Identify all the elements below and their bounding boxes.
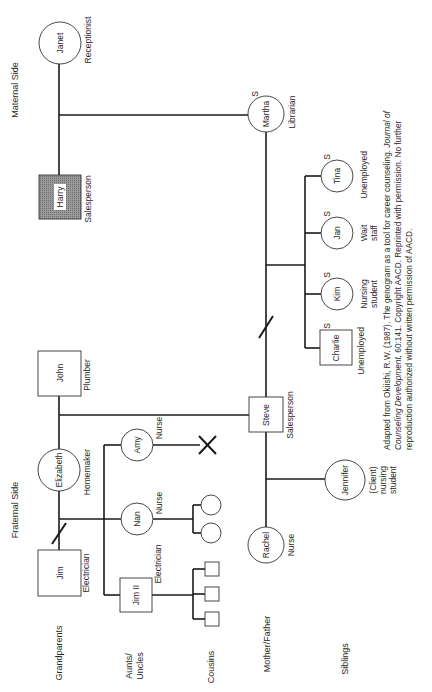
occupation-jan-line1: Wait [359,224,369,241]
cousin-male-2 [205,587,219,601]
marker-s-charlie: S [322,323,332,329]
generation-label-siblings: Siblings [340,643,350,675]
marker-s-jan: S [322,211,332,217]
occupation-nan: Nurse [154,491,164,514]
occupation-martha: Librarian [287,95,297,128]
name-amy: Amy [132,436,142,454]
name-steve: Steve [261,404,271,426]
occupation-tina: Unemployed [359,151,369,199]
occupation-harry: Salesperson [83,175,93,223]
citation-line-1: Adapted from Okiishi, R.W. (1987). The g… [382,109,392,450]
maternal-side-label: Maternal Side [10,62,20,118]
occupation-charlie: Unemployed [356,327,366,375]
name-rachel: Rachel [261,532,271,559]
name-jim: Jim [55,566,65,579]
occupation-john: Plumber [82,359,92,391]
fraternal-side-label: Fraternal Side [10,482,20,539]
marker-s-martha: S [250,91,260,97]
occupation-jim2: Electrician [153,544,163,583]
generation-label-cousins: Cousins [206,650,216,683]
citation-line-2: Counseling Development, 60:141. Copyrigh… [393,120,403,450]
occupation-jennifer-line1: (Client) [368,466,378,494]
occupation-elizabeth: Homemaker [82,449,92,495]
name-charlie: Charlie [331,334,341,361]
name-jim2: Jim II [131,585,141,605]
marker-s-tina: S [322,154,332,160]
occupation-steve: Salesperson [285,391,295,439]
generation-label-uncles: Uncles [135,652,145,680]
occupation-jennifer-line3: student [388,465,398,494]
name-jan: Jan [332,226,342,240]
name-jennifer: Jennifer [340,465,350,495]
name-john: John [55,364,65,383]
name-harry: Harry [55,186,65,208]
genogram-canvas: Maternal Side Fraternal Side Grandparent… [0,0,432,692]
name-elizabeth: Elizabeth [54,452,64,487]
citation-line-3: reproduction authorized without written … [404,229,414,450]
cousin-female-2 [201,523,221,543]
name-tina: Tina [332,168,342,184]
name-kim: Kim [332,287,342,302]
cousin-female-1 [201,495,221,515]
marker-s-kim: S [322,272,332,278]
generation-label-grandparents: Grandparents [54,625,64,681]
cousin-male-1 [205,562,219,576]
occupation-janet: Receptionist [83,16,93,63]
occupation-jan-line2: staff [369,224,379,241]
name-janet: Janet [55,32,65,53]
person-shapes [38,22,365,626]
occupation-kim-line2: student [369,279,379,308]
occupation-jim: Electrician [81,553,91,592]
occupation-kim-line1: Nursing [359,279,369,309]
generation-label-aunts: Aunts/ [124,653,134,679]
occupation-amy: Nurse [154,416,164,439]
connector-lines [52,64,325,619]
cousin-male-3 [205,612,219,626]
occupation-jennifer-line2: nursing [378,466,388,494]
genogram-figure: Maternal Side Fraternal Side Grandparent… [0,0,432,692]
name-nan: Nan [132,511,142,527]
generation-label-mother-father: Mother/Father [262,616,272,673]
occupation-rachel: Nurse [286,533,296,556]
name-martha: Martha [261,101,271,128]
